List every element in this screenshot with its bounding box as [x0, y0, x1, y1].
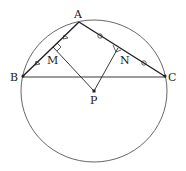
- point-b-dot: [22, 75, 25, 78]
- segment-pn: [94, 48, 118, 91]
- label-p: P: [90, 94, 98, 107]
- label-c: C: [168, 71, 176, 84]
- label-b: B: [10, 71, 18, 84]
- point-p-dot: [93, 90, 96, 93]
- right-angle-mark-m: [57, 43, 61, 51]
- point-c-dot: [164, 75, 167, 78]
- side-ab: [22, 22, 79, 77]
- label-a: A: [73, 8, 83, 21]
- segment-pm: [53, 47, 94, 91]
- label-m: M: [47, 54, 58, 67]
- geometry-diagram: A B C M N P: [0, 0, 186, 171]
- label-n: N: [120, 54, 130, 67]
